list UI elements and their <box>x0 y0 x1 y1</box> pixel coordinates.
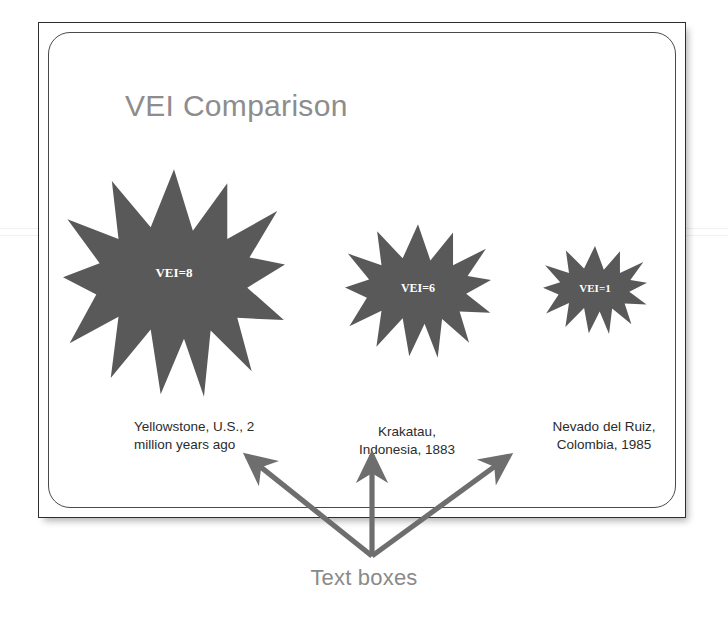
scanned-slide-page: VEI Comparison VEI=8 VEI=6 VEI <box>0 0 728 619</box>
caption-textbox-krakatau: Krakatau, Indonesia, 1883 <box>337 423 477 459</box>
explosion-star-icon <box>63 169 285 396</box>
explosion-star-vei-1: VEI=1 <box>543 245 647 335</box>
caption-line: Yellowstone, U.S., 2 <box>134 418 294 436</box>
caption-line: Nevado del Ruiz, <box>529 418 676 436</box>
explosion-star-icon <box>543 246 647 334</box>
explosion-star-vei-6: VEI=6 <box>345 223 491 359</box>
caption-line: million years ago <box>134 436 294 454</box>
slide-body: VEI Comparison VEI=8 VEI=6 VEI <box>48 32 676 508</box>
caption-line: Indonesia, 1883 <box>337 441 477 459</box>
explosion-star-vei-8: VEI=8 <box>63 167 285 399</box>
annotation-label-text-boxes: Text boxes <box>0 565 728 591</box>
slide-frame: VEI Comparison VEI=8 VEI=6 VEI <box>38 22 686 518</box>
caption-line: Colombia, 1985 <box>529 436 676 454</box>
caption-textbox-yellowstone: Yellowstone, U.S., 2 million years ago <box>134 418 294 454</box>
caption-line: Krakatau, <box>337 423 477 441</box>
page-title: VEI Comparison <box>125 89 348 123</box>
caption-textbox-nevado-del-ruiz: Nevado del Ruiz, Colombia, 1985 <box>529 418 676 454</box>
explosion-star-icon <box>345 224 491 357</box>
